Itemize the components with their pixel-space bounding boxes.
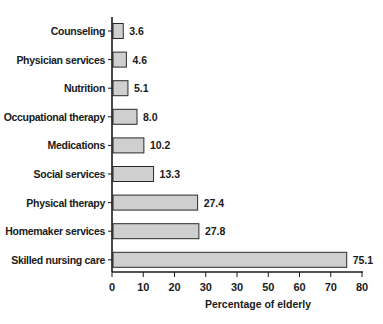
value-label: 75.1 xyxy=(353,254,374,266)
category-label: Nutrition xyxy=(64,82,105,94)
category-label: Physical therapy xyxy=(26,197,105,209)
category-labels: CounselingPhysician servicesNutritionOcc… xyxy=(4,25,112,266)
bar xyxy=(113,195,198,210)
category-label: Occupational therapy xyxy=(4,111,106,123)
value-label: 27.8 xyxy=(205,225,226,237)
bar xyxy=(113,52,126,67)
value-label: 10.2 xyxy=(150,139,171,151)
x-axis-label: Percentage of elderly xyxy=(205,298,311,310)
category-label: Social services xyxy=(34,168,106,180)
bar xyxy=(113,138,144,153)
value-label: 8.0 xyxy=(143,111,158,123)
value-label: 27.4 xyxy=(204,197,225,209)
x-tick-label: 30 xyxy=(200,281,212,293)
x-tick-label: 80 xyxy=(356,281,368,293)
value-label: 3.6 xyxy=(129,25,144,37)
bar xyxy=(113,252,347,267)
bar xyxy=(113,224,199,239)
bar xyxy=(113,109,137,124)
category-label: Medications xyxy=(48,139,106,151)
x-tick-label: 50 xyxy=(262,281,274,293)
category-label: Counseling xyxy=(51,25,105,37)
bars-group xyxy=(113,24,347,268)
bar-chart: CounselingPhysician servicesNutritionOcc… xyxy=(0,0,383,324)
x-axis-ticks: 01020303050607080 xyxy=(109,272,368,293)
x-tick-label: 10 xyxy=(137,281,149,293)
category-label: Physician services xyxy=(16,54,105,66)
category-label: Homemaker services xyxy=(5,225,105,237)
value-label: 4.6 xyxy=(132,54,147,66)
x-tick-label: 60 xyxy=(293,281,305,293)
value-label: 13.3 xyxy=(160,168,181,180)
x-tick-label: 20 xyxy=(168,281,180,293)
category-label: Skilled nursing care xyxy=(11,254,105,266)
value-label: 5.1 xyxy=(134,82,149,94)
x-tick-label: 70 xyxy=(325,281,337,293)
x-tick-label: 0 xyxy=(109,281,115,293)
bar xyxy=(113,167,154,182)
bar xyxy=(113,81,128,96)
bar xyxy=(113,24,123,39)
x-tick-label: 30 xyxy=(231,281,243,293)
